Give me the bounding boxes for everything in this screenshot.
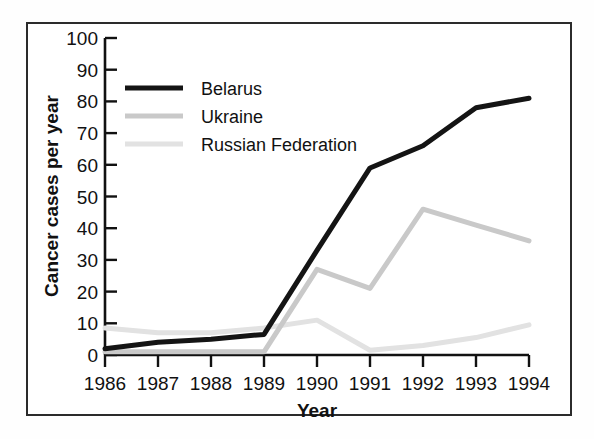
x-tick-label-1992: 1992 bbox=[402, 373, 444, 394]
y-tick-label-60: 60 bbox=[77, 155, 98, 176]
x-tick-label-1989: 1989 bbox=[243, 373, 285, 394]
x-tick-label-1994: 1994 bbox=[508, 373, 551, 394]
y-tick-label-40: 40 bbox=[77, 218, 98, 239]
x-tick-label-1993: 1993 bbox=[455, 373, 497, 394]
y-axis-ticks bbox=[105, 38, 117, 355]
chart-legend: BelarusUkraineRussian Federation bbox=[125, 79, 357, 155]
y-axis-title: Cancer cases per year bbox=[41, 95, 62, 297]
x-tick-label-1991: 1991 bbox=[349, 373, 391, 394]
y-axis-tick-labels: 0102030405060708090100 bbox=[66, 28, 98, 366]
y-tick-label-100: 100 bbox=[66, 28, 98, 49]
series-line-russian-federation bbox=[105, 320, 529, 350]
y-tick-label-0: 0 bbox=[87, 345, 98, 366]
figure-root: 0102030405060708090100 19861987198819891… bbox=[0, 0, 594, 439]
x-tick-label-1988: 1988 bbox=[190, 373, 232, 394]
y-tick-label-10: 10 bbox=[77, 313, 98, 334]
y-tick-label-70: 70 bbox=[77, 123, 98, 144]
legend-label-belarus: Belarus bbox=[201, 79, 262, 99]
y-tick-label-20: 20 bbox=[77, 282, 98, 303]
x-tick-label-1987: 1987 bbox=[137, 373, 179, 394]
y-tick-label-90: 90 bbox=[77, 60, 98, 81]
x-axis-ticks bbox=[105, 355, 529, 367]
legend-label-russian-federation: Russian Federation bbox=[201, 135, 357, 155]
y-tick-label-30: 30 bbox=[77, 250, 98, 271]
x-axis-tick-labels: 198619871988198919901991199219931994 bbox=[84, 373, 551, 394]
x-tick-label-1986: 1986 bbox=[84, 373, 126, 394]
line-chart: 0102030405060708090100 19861987198819891… bbox=[0, 0, 594, 439]
x-tick-label-1990: 1990 bbox=[296, 373, 338, 394]
y-tick-label-50: 50 bbox=[77, 187, 98, 208]
x-axis-title: Year bbox=[297, 400, 338, 421]
legend-label-ukraine: Ukraine bbox=[201, 107, 263, 127]
y-tick-label-80: 80 bbox=[77, 91, 98, 112]
